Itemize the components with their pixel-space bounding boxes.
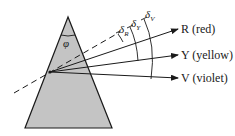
ray-label-violet: V (violet) bbox=[181, 71, 228, 85]
deviation-label-red: δR bbox=[119, 23, 129, 38]
deviation-arc-red bbox=[118, 34, 123, 42]
deviation-label-yellow: δY bbox=[131, 17, 141, 32]
ray-label-red: R (red) bbox=[181, 22, 215, 36]
prism-dispersion-diagram: φ δR δY δV R (red) Y (yellow) V (violet) bbox=[0, 0, 235, 136]
deviation-label-violet: δV bbox=[145, 8, 155, 23]
ray-label-yellow: Y (yellow) bbox=[181, 48, 233, 62]
apex-angle-label: φ bbox=[63, 37, 69, 49]
deviation-arc-violet bbox=[144, 19, 152, 79]
